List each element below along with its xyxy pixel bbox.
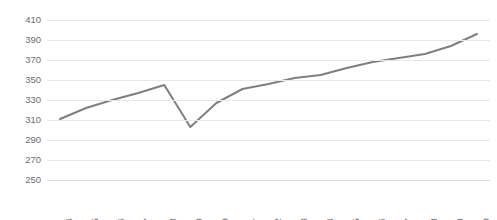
x-axis-tick-label: 2018 [429, 218, 439, 220]
y-axis-tick-label: 390 [7, 35, 41, 45]
x-axis-tick-label: 2019 [455, 218, 465, 220]
gridline [47, 100, 490, 101]
y-axis-tick-label: 330 [7, 95, 41, 105]
gridline [47, 60, 490, 61]
x-axis-tick-label: 2004 [64, 218, 74, 220]
x-axis-tick-label: 2005 [90, 218, 100, 220]
line-chart: 410390370350330310290270250 200420052006… [0, 0, 497, 220]
x-axis-tick-label: 2016 [377, 218, 387, 220]
x-axis-tick-label: 2014 [325, 218, 335, 220]
x-axis-tick-label: 2015 [351, 218, 361, 220]
y-axis-tick-label: 250 [7, 175, 41, 185]
x-axis-tick-label: 2008 [168, 218, 178, 220]
x-axis-tick-label: 2006 [116, 218, 126, 220]
x-axis-tick-label: 2011 [246, 218, 256, 220]
gridline [47, 80, 490, 81]
y-axis-tick-label: 290 [7, 135, 41, 145]
plot-area [47, 20, 490, 180]
gridline [47, 140, 490, 141]
x-axis: 2004200520062007200820092010201120122013… [47, 181, 490, 220]
x-axis-tick-label: 2013 [299, 218, 309, 220]
x-axis-tick-label: 2020 [481, 218, 491, 220]
gridline [47, 40, 490, 41]
y-axis-tick-label: 410 [7, 15, 41, 25]
x-axis-tick-label: 2012 [273, 218, 283, 220]
x-axis-tick-label: 2009 [194, 218, 204, 220]
y-axis-tick-label: 310 [7, 115, 41, 125]
y-axis: 410390370350330310290270250 [0, 20, 41, 180]
gridline [47, 120, 490, 121]
x-axis-tick-label: 2007 [142, 218, 152, 220]
x-axis-tick-label: 2017 [403, 218, 413, 220]
gridline [47, 20, 490, 21]
x-axis-tick-label: 2010 [220, 218, 230, 220]
y-axis-tick-label: 270 [7, 155, 41, 165]
y-axis-tick-label: 370 [7, 55, 41, 65]
y-axis-tick-label: 350 [7, 75, 41, 85]
gridline [47, 160, 490, 161]
